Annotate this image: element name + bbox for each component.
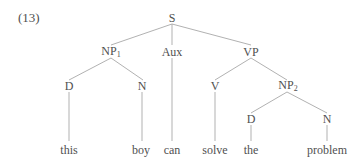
leaf-this: this: [60, 144, 77, 156]
node-n1: N: [138, 80, 147, 92]
leaf-solve: solve: [202, 144, 227, 156]
node-np2: NP2: [278, 79, 297, 93]
node-d2: D: [247, 113, 256, 125]
leaf-boy: boy: [132, 144, 150, 156]
node-np1: NP1: [101, 45, 120, 59]
node-d1: D: [65, 80, 74, 92]
leaf-can: can: [164, 144, 181, 156]
node-aux: Aux: [162, 46, 183, 58]
leaf-problem: problem: [307, 144, 347, 156]
tree-edges: [0, 0, 364, 167]
node-v: V: [211, 80, 220, 92]
leaf-the: the: [244, 144, 259, 156]
example-number: (13): [18, 10, 40, 26]
node-s: S: [169, 12, 176, 24]
node-vp: VP: [243, 46, 258, 58]
node-n2: N: [323, 113, 332, 125]
